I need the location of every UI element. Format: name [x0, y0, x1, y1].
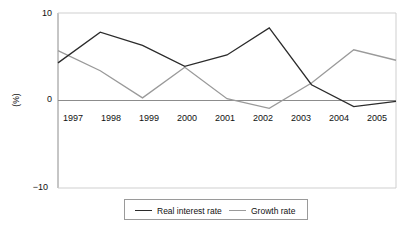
legend-label-real-interest-rate: Real interest rate — [157, 206, 222, 216]
series-group — [58, 28, 396, 109]
series-line-growth-rate — [58, 28, 396, 107]
axes-group — [58, 13, 396, 188]
legend-line-swatch-growth-rate — [229, 210, 246, 211]
legend-label-growth-rate: Growth rate — [251, 206, 295, 216]
legend-entry-growth-rate: Growth rate — [229, 200, 295, 221]
legend-entry-real-interest-rate: Real interest rate — [135, 200, 222, 221]
legend-line-swatch-real-interest-rate — [135, 210, 152, 211]
series-line-real-interest-rate — [58, 50, 396, 109]
chart-legend: Real interest rate Growth rate — [124, 199, 308, 220]
